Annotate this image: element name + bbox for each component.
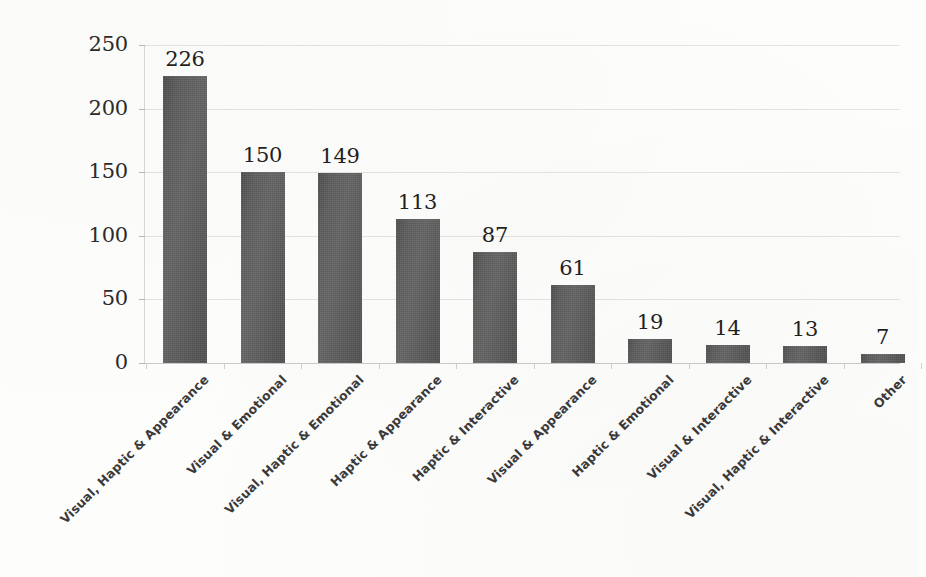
bar-value-label: 150 <box>228 143 298 167</box>
bar <box>163 76 207 363</box>
gridline-250 <box>145 45 900 46</box>
x-tick-mark <box>146 363 147 369</box>
x-axis-label-text: Visual, Haptic & Interactive <box>682 372 832 522</box>
y-tick-label-50: 50 <box>58 286 128 310</box>
y-tick-label-100: 100 <box>58 223 128 247</box>
y-tick-label-150: 150 <box>58 159 128 183</box>
bar-value-label: 113 <box>383 190 453 214</box>
bar-value-label: 149 <box>305 144 375 168</box>
x-axis-label-text: Other <box>870 372 909 411</box>
x-axis-label-text: Visual, Haptic & Emotional <box>221 372 366 517</box>
caption-ghost-text <box>330 564 760 576</box>
bar <box>861 354 905 363</box>
y-tick-label-200: 200 <box>58 96 128 120</box>
bar <box>706 345 750 363</box>
y-tick-label-0: 0 <box>58 350 128 374</box>
bar <box>783 346 827 363</box>
x-axis-label-text: Visual, Haptic & Appearance <box>57 372 212 527</box>
y-tick-label-250: 250 <box>58 32 128 56</box>
gridline-200 <box>145 109 900 110</box>
bar-value-label: 226 <box>150 47 220 71</box>
